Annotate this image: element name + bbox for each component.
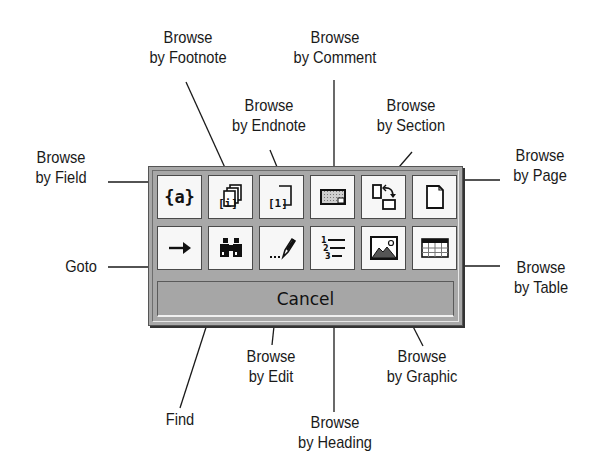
numbered-list-icon: 123 [318,234,348,262]
callout-line2: by Comment [290,48,379,68]
section-icon [369,182,399,212]
callout-line1: Browse [371,96,452,116]
callout-line2: by Field [31,168,91,188]
browse-by-field-button[interactable]: {a} [157,175,202,219]
callout-line2: by Edit [241,367,301,387]
callout-line1: Browse [295,413,374,433]
callout-goto: Goto [60,257,103,277]
callout-line1: Goto [60,257,103,277]
endnote-icon: [1] [267,183,297,211]
browse-by-table-button[interactable] [412,226,457,270]
browse-by-footnote-button[interactable]: [i] [208,175,253,219]
svg-text:[1]: [1] [268,197,288,210]
page-icon [423,183,447,211]
callout-browse-by-table: Browse by Table [510,258,572,298]
callout-browse-by-endnote: Browse by Endnote [230,96,307,136]
comment-icon [318,185,348,209]
callout-line1: Browse [31,148,91,168]
callout-line2: by Endnote [230,116,307,136]
browse-by-heading-button[interactable]: 123 [310,226,355,270]
browse-object-panel: {a} [i] [1] [148,166,463,326]
callout-line1: Browse [145,28,231,48]
callout-browse-by-heading: Browse by Heading [295,413,374,453]
footnote-stack-icon: [i] [216,183,246,211]
callout-line1: Browse [510,146,570,166]
callout-line2: by Section [371,116,452,136]
table-icon [420,236,450,260]
arrow-right-icon [166,240,194,256]
browse-by-endnote-button[interactable]: [1] [259,175,304,219]
callout-browse-by-section: Browse by Section [371,96,452,136]
callout-line1: Browse [510,258,572,278]
callout-line2: by Footnote [145,48,231,68]
svg-text:[i]: [i] [218,197,238,210]
callout-line1: Find [159,410,202,430]
cancel-label: Cancel [277,289,335,309]
callout-find: Find [159,410,202,430]
binoculars-icon [217,236,245,260]
browse-by-comment-button[interactable] [310,175,355,219]
callout-line1: Browse [290,28,379,48]
callout-line1: Browse [241,347,301,367]
browse-by-section-button[interactable] [361,175,406,219]
pencil-icon [267,234,297,262]
cancel-button[interactable]: Cancel [157,281,454,317]
find-button[interactable] [208,226,253,270]
callout-browse-by-page: Browse by Page [510,146,570,186]
callout-browse-by-graphic: Browse by Graphic [381,347,464,387]
callout-line2: by Heading [295,433,374,453]
callout-browse-by-field: Browse by Field [31,148,91,188]
svg-text:3: 3 [325,252,331,261]
callout-browse-by-comment: Browse by Comment [290,28,379,68]
browse-by-page-button[interactable] [412,175,457,219]
field-braces-icon: {a} [164,187,195,207]
callout-browse-by-edit: Browse by Edit [241,347,301,387]
browse-by-edit-button[interactable] [259,226,304,270]
callout-line2: by Page [510,166,570,186]
callout-browse-by-footnote: Browse by Footnote [145,28,231,68]
callout-line2: by Graphic [381,367,464,387]
callout-line1: Browse [381,347,464,367]
goto-button[interactable] [157,226,202,270]
picture-icon [369,234,399,262]
callout-line1: Browse [230,96,307,116]
callout-line2: by Table [510,278,572,298]
browse-by-graphic-button[interactable] [361,226,406,270]
